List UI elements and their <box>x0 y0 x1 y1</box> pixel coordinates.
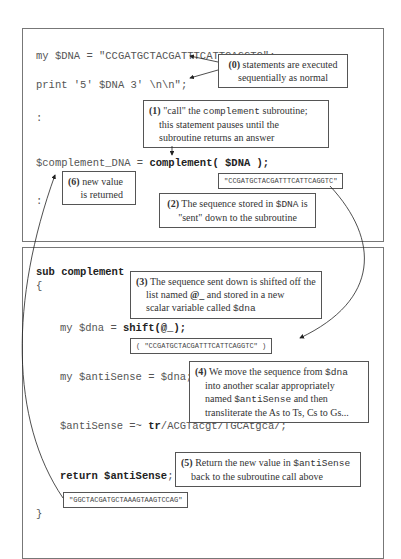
value-list: ( "CCGATGCTACGATTTCATTCAGGTC" ) <box>130 338 272 354</box>
code-sub-complement: sub complement <box>36 266 124 278</box>
note-6-returned: (6) new value is returned <box>62 171 136 205</box>
value-sent-dna: "CCGATGCTACGATTTCATTCAGGTC" <box>218 173 343 189</box>
note-0-sequential: (0) statements are executedsequentially … <box>218 54 348 88</box>
code-return: return $antiSense; <box>60 470 173 482</box>
note-1-call: (1) "call" the complement subroutine; th… <box>143 100 329 148</box>
code-complement-call: $complement_DNA = complement( $DNA ); <box>36 157 269 169</box>
value-returned: "GGCTACGATGCTAAAGTAAGTCCAG" <box>63 492 188 508</box>
code-open-brace: { <box>36 280 42 292</box>
code-shift: my $dna = shift(@_); <box>60 322 186 334</box>
code-antisense-assign: my $antiSense = $dna; <box>60 371 192 383</box>
code-ellipsis-1: : <box>36 112 42 124</box>
note-2-sent: (2) The sequence stored in $DNA is"sent"… <box>159 193 316 228</box>
note-5-return: (5) Return the new value in $antiSense b… <box>175 452 361 487</box>
note-3-shift: (3) The sequence sent down is shifted of… <box>130 271 322 319</box>
code-ellipsis-2: : <box>36 195 42 207</box>
note-4-move: (4) We move the sequence from $dna into … <box>189 361 369 423</box>
code-close-brace: } <box>36 508 42 520</box>
code-print: print '5' $DNA 3' \n\n"; <box>36 79 187 91</box>
